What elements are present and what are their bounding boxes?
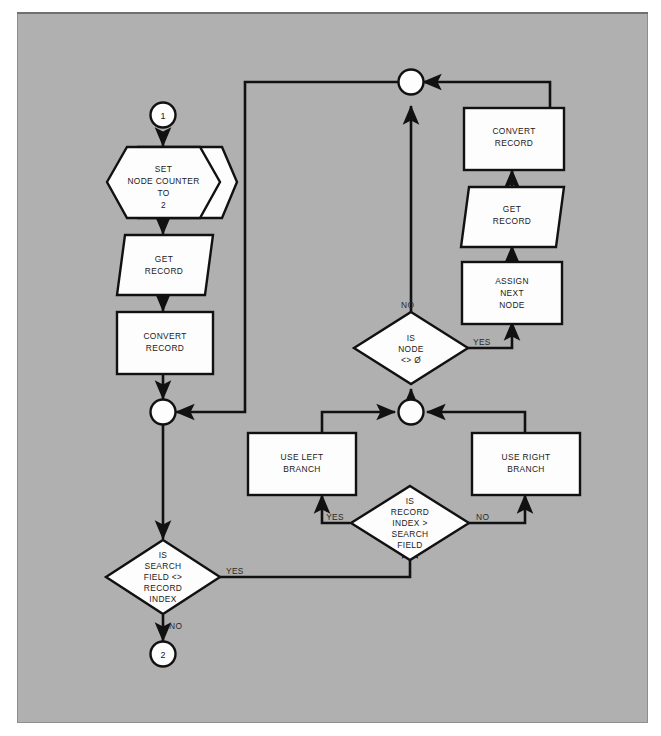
node-get-record-right: GET RECORD	[461, 187, 564, 247]
record-index-diamond-line-4: FIELD	[397, 540, 423, 550]
node-convert-record-right-line-0: CONVERT	[492, 126, 535, 136]
use-left-branch-line-1: BRANCH	[283, 464, 320, 474]
node-diamond-line-2: <> Ø	[401, 355, 421, 365]
search-diamond-line-3: RECORD	[144, 583, 182, 593]
use-right-branch-line-0: USE RIGHT	[502, 452, 551, 462]
node-assign-next-node: ASSIGN NEXT NODE	[462, 262, 562, 324]
end-connector: 2	[151, 642, 176, 667]
start-connector-label: 1	[160, 111, 165, 121]
edge-convert-record-right-to-merge-top	[423, 82, 550, 108]
record-index-diamond-line-0: IS	[406, 496, 415, 506]
search-diamond-line-0: IS	[159, 550, 168, 560]
node-convert-record-right: CONVERT RECORD	[464, 108, 564, 170]
flowchart-canvas: 1 SET NODE COUNTER TO 2 GET RECORD CONVE…	[17, 12, 648, 723]
edge-search-diamond-yes-to-record-index	[220, 540, 410, 577]
edge-label-search-field-no: NO	[169, 621, 182, 631]
node-set-node-counter: SET NODE COUNTER TO 2	[107, 147, 237, 218]
use-left-branch-line-0: USE LEFT	[281, 452, 324, 462]
node-set-node-counter-line-0: SET	[155, 164, 172, 174]
node-is-search-field-ne-record-index: IS SEARCH FIELD <> RECORD INDEX	[106, 540, 220, 614]
assign-next-node-line-1: NEXT	[500, 288, 524, 298]
search-diamond-line-1: SEARCH	[144, 561, 181, 571]
assign-next-node-line-2: NODE	[499, 300, 525, 310]
assign-next-node-line-0: ASSIGN	[495, 276, 529, 286]
end-connector-label: 2	[160, 650, 165, 660]
node-get-record-right-line-1: RECORD	[493, 216, 531, 226]
node-get-record-left-line-0: GET	[155, 254, 173, 264]
merge-connector-a	[151, 400, 176, 425]
search-diamond-line-2: FIELD <>	[144, 572, 183, 582]
node-diamond-line-0: IS	[407, 333, 416, 343]
diagram-panel: 1 SET NODE COUNTER TO 2 GET RECORD CONVE…	[17, 12, 648, 723]
edge-label-node-diamond-yes: YES	[473, 337, 491, 347]
node-use-right-branch: USE RIGHT BRANCH	[472, 433, 580, 495]
edge-label-node-diamond-no: NO	[401, 300, 414, 310]
use-right-branch-line-1: BRANCH	[507, 464, 544, 474]
node-get-record-left: GET RECORD	[117, 235, 213, 295]
node-convert-record-right-line-1: RECORD	[495, 138, 533, 148]
node-is-node-ne-zero: IS NODE <> Ø	[354, 312, 468, 384]
merge-connector-top	[399, 70, 424, 95]
merge-connector-b	[399, 400, 424, 425]
start-connector: 1	[151, 103, 176, 128]
edge-use-right-to-merge-b	[427, 412, 525, 433]
node-is-record-index-gt-search-field: IS RECORD INDEX > SEARCH FIELD	[351, 486, 469, 560]
node-get-record-right-line-0: GET	[503, 204, 521, 214]
node-set-node-counter-line-1: NODE COUNTER	[127, 176, 199, 186]
node-convert-record-left-line-1: RECORD	[146, 343, 184, 353]
record-index-diamond-line-2: INDEX >	[392, 518, 427, 528]
node-use-left-branch: USE LEFT BRANCH	[248, 433, 356, 495]
node-get-record-left-line-1: RECORD	[145, 266, 183, 276]
flowchart-page: 1 SET NODE COUNTER TO 2 GET RECORD CONVE…	[0, 0, 661, 736]
node-diamond-line-1: NODE	[398, 344, 424, 354]
node-convert-record-left: CONVERT RECORD	[117, 312, 213, 374]
node-set-node-counter-line-2: TO	[157, 188, 169, 198]
record-index-diamond-line-1: RECORD	[391, 507, 429, 517]
edge-label-search-field-yes: YES	[226, 566, 244, 576]
search-diamond-line-4: INDEX	[149, 594, 176, 604]
node-set-node-counter-line-3: 2	[161, 200, 166, 210]
edge-use-left-to-merge-b	[322, 412, 395, 433]
edge-label-record-index-no: NO	[476, 512, 489, 522]
record-index-diamond-line-3: SEARCH	[391, 529, 428, 539]
node-convert-record-left-line-0: CONVERT	[143, 331, 186, 341]
edge-label-record-index-yes: YES	[326, 512, 344, 522]
